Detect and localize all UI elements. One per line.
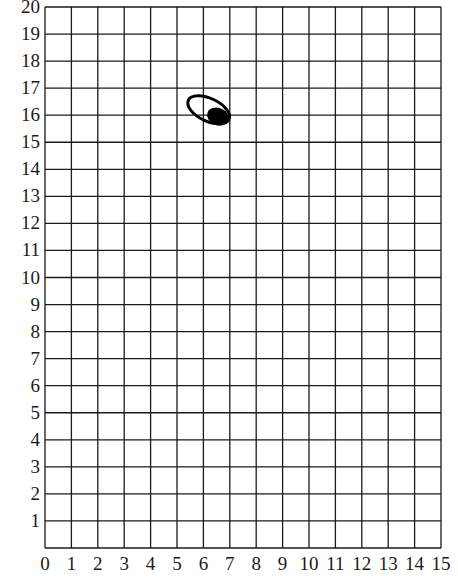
x-tick-label: 11: [326, 553, 344, 574]
x-tick-label: 5: [172, 553, 182, 574]
y-tick-label: 14: [21, 158, 41, 179]
y-tick-label: 8: [31, 321, 41, 342]
y-tick-label: 2: [31, 483, 41, 504]
grid-lines: [45, 7, 441, 548]
x-tick-label: 9: [278, 553, 288, 574]
y-tick-label: 19: [21, 23, 40, 44]
x-tick-label: 8: [251, 553, 261, 574]
x-axis-labels: 0123456789101112131415: [40, 553, 450, 574]
y-tick-label: 5: [31, 402, 41, 423]
x-tick-label: 7: [225, 553, 235, 574]
x-tick-label: 10: [300, 553, 319, 574]
x-tick-label: 13: [379, 553, 398, 574]
x-tick-label: 14: [405, 553, 425, 574]
y-axis-labels: 1234567891011121314151617181920: [21, 0, 41, 531]
y-tick-label: 15: [21, 131, 40, 152]
y-tick-label: 9: [31, 294, 41, 315]
y-tick-label: 7: [31, 348, 41, 369]
x-tick-label: 4: [146, 553, 156, 574]
x-tick-label: 15: [432, 553, 451, 574]
y-tick-label: 6: [31, 375, 41, 396]
x-tick-label: 1: [67, 553, 77, 574]
y-tick-label: 10: [21, 267, 40, 288]
y-tick-label: 20: [21, 0, 40, 17]
y-tick-label: 17: [21, 77, 40, 98]
y-tick-label: 3: [31, 456, 41, 477]
y-tick-label: 12: [21, 212, 40, 233]
y-tick-label: 4: [31, 429, 41, 450]
y-tick-label: 1: [31, 510, 41, 531]
x-tick-label: 2: [93, 553, 103, 574]
y-tick-label: 13: [21, 185, 40, 206]
y-tick-label: 11: [22, 239, 40, 260]
x-tick-label: 0: [40, 553, 50, 574]
x-tick-label: 12: [352, 553, 371, 574]
ellipse-outline: [184, 90, 234, 130]
coordinate-grid: 0123456789101112131415 12345678910111213…: [0, 0, 458, 583]
x-tick-label: 6: [199, 553, 209, 574]
x-tick-label: 3: [119, 553, 129, 574]
drawn-shapes: [184, 90, 234, 130]
y-tick-label: 18: [21, 50, 40, 71]
y-tick-label: 16: [21, 104, 40, 125]
